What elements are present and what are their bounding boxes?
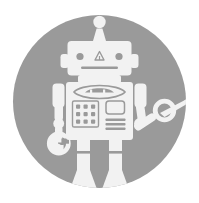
status-bar: [106, 119, 126, 122]
keypad-key: [84, 105, 88, 109]
chest-emblem-bar-left: [90, 90, 92, 96]
keypad-key: [84, 120, 88, 124]
status-bars: [106, 119, 126, 131]
chest-emblem-bar-right: [103, 90, 105, 96]
status-bar: [106, 128, 126, 131]
keypad-key: [76, 112, 80, 116]
keypad-buttons[interactable]: [76, 105, 95, 124]
robot-avatar-illustration: [0, 0, 199, 203]
keypad-key: [84, 112, 88, 116]
eye-right: [115, 53, 122, 60]
keypad-key: [91, 120, 95, 124]
eye-left: [76, 53, 83, 60]
left-upper-arm: [55, 101, 64, 121]
mouth-line: [81, 67, 118, 70]
keypad-key: [91, 112, 95, 116]
antenna-ball-icon: [93, 16, 105, 28]
left-hand-grip: [56, 134, 61, 143]
keypad-key: [91, 105, 95, 109]
keypad-key: [76, 105, 80, 109]
keypad-key: [76, 120, 80, 124]
status-bar: [106, 123, 126, 126]
right-knee: [108, 151, 123, 154]
avatar-canvas: [0, 0, 199, 203]
left-knee: [76, 151, 91, 154]
